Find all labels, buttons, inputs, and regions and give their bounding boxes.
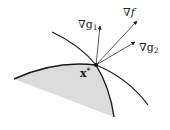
optimum-point	[94, 63, 98, 67]
label-grad-g1: ∇g1	[78, 18, 98, 32]
gradient-g2-arrow	[96, 42, 135, 65]
label-grad-g2: ∇g2	[139, 41, 159, 55]
kkt-diagram: ∇g1 ∇f ∇g2 x*	[0, 0, 170, 130]
feasible-region	[14, 64, 114, 117]
gradient-f-arrow	[96, 21, 137, 65]
label-grad-f: ∇f	[123, 6, 137, 19]
